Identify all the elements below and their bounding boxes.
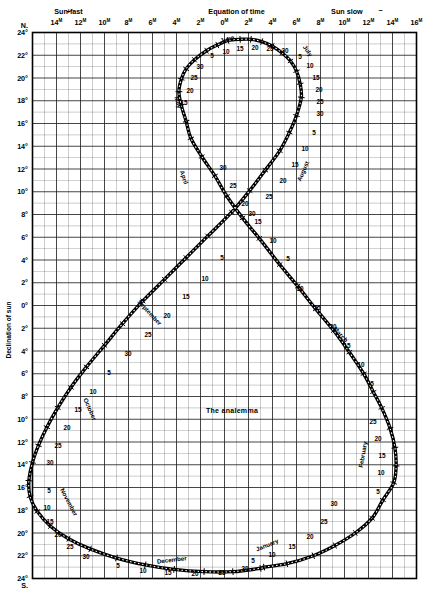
day-label: 30 bbox=[281, 47, 289, 54]
day-label: 15 bbox=[288, 543, 296, 550]
y-tick-label: 16° bbox=[17, 119, 28, 128]
day-label: 20 bbox=[163, 312, 171, 319]
south-marker: S. bbox=[21, 581, 28, 590]
day-label: 20 bbox=[191, 570, 199, 577]
x-tick-label: 10M bbox=[339, 18, 351, 27]
day-label: 20 bbox=[374, 435, 382, 442]
date-tick bbox=[260, 565, 261, 572]
day-label: 20 bbox=[315, 86, 323, 93]
month-label: February bbox=[357, 440, 369, 468]
y-tick-label: 6° bbox=[21, 369, 28, 378]
north-marker: N. bbox=[21, 21, 28, 30]
day-label: 25 bbox=[218, 569, 226, 576]
day-label: 15 bbox=[254, 218, 262, 225]
day-label: 5 bbox=[286, 255, 290, 262]
day-label: 10 bbox=[139, 567, 147, 574]
analemma-figure: 16M14M12M10M8M6M4M2M0M2M4M6M8M10M12M14M … bbox=[0, 0, 431, 595]
x-tick-label: 2M bbox=[197, 18, 205, 27]
day-label: 5 bbox=[210, 52, 214, 59]
y-tick-label: 22° bbox=[17, 551, 28, 560]
day-label: 15 bbox=[182, 293, 190, 300]
day-label: 20 bbox=[186, 87, 194, 94]
y-tick-label: 20° bbox=[17, 74, 28, 83]
month-label: June bbox=[219, 33, 235, 44]
day-label: 15 bbox=[74, 406, 82, 413]
day-label: 25 bbox=[229, 182, 237, 189]
equation-of-time-label: Equation of time bbox=[208, 7, 264, 16]
day-label: 5 bbox=[251, 557, 255, 564]
month-label: November bbox=[59, 487, 80, 518]
analemma-chart-svg: 16M14M12M10M8M6M4M2M0M2M4M6M8M10M12M14M … bbox=[0, 0, 431, 595]
sun-fast-label: Sun fast bbox=[54, 7, 83, 16]
y-tick-label: 12° bbox=[17, 438, 28, 447]
day-label: 20 bbox=[54, 531, 62, 538]
x-tick-label: 2M bbox=[245, 18, 253, 27]
y-tick-label: 2° bbox=[21, 324, 28, 333]
day-label: 25 bbox=[369, 418, 377, 425]
y-tick-label: 10° bbox=[17, 415, 28, 424]
day-label: 5 bbox=[376, 488, 380, 495]
y-tick-label: 22° bbox=[17, 51, 28, 60]
day-label: 15 bbox=[236, 45, 244, 52]
day-label: 20 bbox=[63, 424, 71, 431]
day-label: 10 bbox=[269, 237, 277, 244]
day-label: 30 bbox=[330, 500, 338, 507]
day-label: 5 bbox=[312, 129, 316, 136]
month-label: July bbox=[302, 43, 315, 58]
day-label: 10 bbox=[306, 62, 314, 69]
date-tick bbox=[264, 564, 265, 571]
day-label: 25 bbox=[316, 98, 324, 105]
chart-title: The analemma bbox=[206, 407, 258, 414]
day-label: 20 bbox=[279, 177, 287, 184]
day-label: 5 bbox=[220, 254, 224, 261]
day-label: 25 bbox=[266, 45, 274, 52]
y-tick-label: 14° bbox=[17, 460, 28, 469]
x-axis-tick-labels: 16M14M12M10M8M6M4M2M0M2M4M6M8M10M12M14M bbox=[51, 18, 423, 27]
y-tick-label: 10° bbox=[17, 187, 28, 196]
day-label: 10 bbox=[43, 504, 51, 511]
day-label: 15 bbox=[46, 518, 54, 525]
x-tick-label: 16M bbox=[411, 18, 423, 27]
day-label: 10 bbox=[222, 48, 230, 55]
date-tick bbox=[251, 36, 252, 43]
x-tick-label: 8M bbox=[125, 18, 133, 27]
y-axis-title-text: Declination of sun bbox=[5, 301, 12, 358]
y-tick-label: 4° bbox=[21, 256, 28, 265]
day-label: 10 bbox=[377, 469, 385, 476]
chart-grid bbox=[33, 33, 417, 579]
day-label: 25 bbox=[144, 331, 152, 338]
day-label: 25 bbox=[265, 193, 273, 200]
day-label: 5 bbox=[47, 487, 51, 494]
day-label: 15 bbox=[312, 74, 320, 81]
day-label: 5 bbox=[116, 562, 120, 569]
y-tick-label: 8° bbox=[21, 210, 28, 219]
day-label: 10 bbox=[268, 551, 276, 558]
day-label: 20 bbox=[251, 44, 259, 51]
month-label: October bbox=[82, 397, 98, 422]
day-label: 10 bbox=[201, 275, 209, 282]
day-label: 30 bbox=[124, 350, 132, 357]
day-label: 30 bbox=[241, 565, 249, 572]
x-tick-label: 4M bbox=[173, 18, 181, 27]
y-tick-label: 8° bbox=[21, 392, 28, 401]
day-label: 10 bbox=[301, 145, 309, 152]
day-label: 25 bbox=[190, 74, 198, 81]
day-label: 30 bbox=[46, 459, 54, 466]
y-axis-title: Declination of sun bbox=[5, 301, 12, 358]
day-label: 10 bbox=[89, 388, 97, 395]
day-label: 30 bbox=[219, 164, 227, 171]
day-label: 25 bbox=[54, 442, 62, 449]
day-label: 15 bbox=[164, 569, 172, 576]
day-label: 30 bbox=[316, 110, 324, 117]
x-tick-label: 12M bbox=[75, 18, 87, 27]
y-tick-label: 12° bbox=[17, 165, 28, 174]
day-label: 5 bbox=[107, 369, 111, 376]
x-tick-label: 8M bbox=[317, 18, 325, 27]
day-label: 25 bbox=[66, 543, 74, 550]
day-label: 20 bbox=[241, 200, 249, 207]
analemma-title-text: The analemma bbox=[206, 407, 258, 414]
y-tick-label: 6° bbox=[21, 233, 28, 242]
y-tick-label: 20° bbox=[17, 529, 28, 538]
day-label: 30 bbox=[196, 63, 204, 70]
sun-slow-label: Sun slow bbox=[331, 7, 363, 16]
